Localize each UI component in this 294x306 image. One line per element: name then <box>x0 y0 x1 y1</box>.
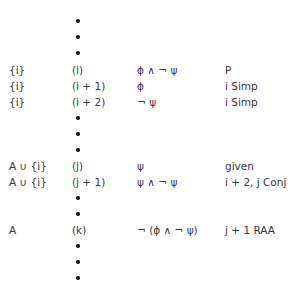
assumption-set: A ∪ {i} <box>9 174 47 190</box>
proof-line: A (k) ¬ (ϕ ∧ ¬ ψ) j + 1 RAA <box>0 222 294 238</box>
proof-line: A ∪ {i} (j) ψ given <box>0 158 294 174</box>
ellipsis-dot-icon <box>76 132 80 136</box>
proof-line: {i} (i + 2) ¬ ψ i Simp <box>0 94 294 110</box>
line-number: (j + 1) <box>72 174 105 190</box>
proof-line: A ∪ {i} (j + 1) ψ ∧ ¬ ψ i + 2, j Conj <box>0 174 294 190</box>
ellipsis-dot-icon <box>76 196 80 200</box>
assumption-set: {i} <box>9 62 25 78</box>
formula: ¬ ψ <box>137 94 156 110</box>
ellipsis-dot-icon <box>76 260 80 264</box>
ellipsis-dot-icon <box>76 148 80 152</box>
justification: i Simp <box>225 78 258 94</box>
justification: i Simp <box>225 94 258 110</box>
formula: ¬ (ϕ ∧ ¬ ψ) <box>137 222 198 238</box>
proof-line: {i} (i) ϕ ∧ ¬ ψ P <box>0 62 294 78</box>
ellipsis-dot-icon <box>76 276 80 280</box>
formula: ψ <box>137 158 144 174</box>
ellipsis-dot-icon <box>76 212 80 216</box>
justification: j + 1 RAA <box>225 222 275 238</box>
formula: ψ ∧ ¬ ψ <box>137 174 177 190</box>
justification: given <box>225 158 254 174</box>
justification: i + 2, j Conj <box>225 174 286 190</box>
proof-line: {i} (i + 1) ϕ i Simp <box>0 78 294 94</box>
line-number: (k) <box>72 222 86 238</box>
justification: P <box>225 62 231 78</box>
assumption-set: {i} <box>9 94 25 110</box>
assumption-set: A <box>9 222 16 238</box>
ellipsis-dot-icon <box>76 35 80 39</box>
assumption-set: A ∪ {i} <box>9 158 47 174</box>
formula: ϕ <box>137 78 144 94</box>
ellipsis-dot-icon <box>76 19 80 23</box>
line-number: (j) <box>72 158 83 174</box>
ellipsis-dot-icon <box>76 51 80 55</box>
line-number: (i) <box>72 62 83 78</box>
ellipsis-dot-icon <box>76 116 80 120</box>
line-number: (i + 2) <box>72 94 105 110</box>
assumption-set: {i} <box>9 78 25 94</box>
ellipsis-dot-icon <box>76 244 80 248</box>
line-number: (i + 1) <box>72 78 105 94</box>
formula: ϕ ∧ ¬ ψ <box>137 62 177 78</box>
